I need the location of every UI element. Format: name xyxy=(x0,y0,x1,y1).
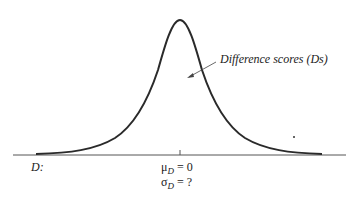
distribution-diagram: Difference scores (Ds) D: μD = 0 σD = ? xyxy=(0,0,364,199)
mean-value: = 0 xyxy=(174,160,193,174)
sd-subscript: D xyxy=(167,181,174,191)
mean-label: μD = 0 xyxy=(161,160,193,175)
stray-dot xyxy=(293,136,295,138)
arrow-head-icon xyxy=(187,73,194,78)
sd-label: σD = ? xyxy=(161,175,192,190)
sd-value: = ? xyxy=(174,175,192,189)
axis-variable-label: D: xyxy=(31,160,44,175)
curve-label: Difference scores (Ds) xyxy=(220,52,328,67)
normal-curve xyxy=(36,20,322,154)
